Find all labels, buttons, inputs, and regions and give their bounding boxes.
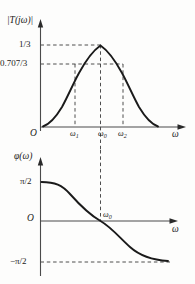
- phase-y-axis-label: φ(ω): [14, 152, 32, 162]
- magnitude-x-axis-label: ω: [172, 130, 179, 140]
- magnitude-xtick-omega0: ω0: [98, 130, 107, 139]
- magnitude-chart: [38, 19, 186, 150]
- phase-x-axis-label: ω: [172, 225, 179, 235]
- omega2-subscript: 2: [124, 133, 127, 139]
- phase-origin-label: O: [27, 214, 34, 224]
- phase-ytick-neg-half-pi: −π/2: [10, 257, 27, 266]
- omega0-subscript: 0: [109, 214, 112, 220]
- magnitude-xtick-omega1: ω1: [70, 130, 79, 139]
- phase-x-axis-arrow: [170, 218, 179, 223]
- phase-xtick-omega0: ω0: [103, 211, 112, 220]
- magnitude-origin-label: O: [30, 129, 37, 139]
- omega1-subscript: 1: [76, 133, 79, 139]
- magnitude-xtick-omega2: ω2: [118, 130, 127, 139]
- magnitude-y-axis-label: |T(jω)|: [7, 16, 33, 26]
- omega0-subscript: 0: [104, 133, 107, 139]
- magnitude-y-axis-arrow: [38, 19, 43, 28]
- phase-y-axis-arrow: [38, 157, 43, 166]
- magnitude-ytick-peak: 1/3: [19, 40, 31, 49]
- magnitude-ytick-halfpower: 0.707/3: [0, 59, 27, 68]
- phase-ytick-pos-half-pi: π/2: [20, 177, 32, 186]
- figure-container: |T(jω)| 1/3 0.707/3 O ω1 ω0 ω2 ω φ(ω) π/…: [0, 0, 195, 284]
